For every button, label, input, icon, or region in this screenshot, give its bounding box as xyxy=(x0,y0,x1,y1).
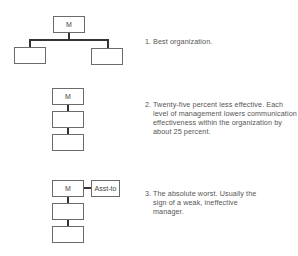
level-box xyxy=(52,134,84,151)
manager-box: M xyxy=(52,180,84,197)
caption-text: Twenty-five percent less effective. Each… xyxy=(145,100,297,136)
manager-box: M xyxy=(52,88,84,105)
caption-text: The absolute worst. Usually the sign of … xyxy=(145,189,270,216)
connector xyxy=(84,187,91,189)
caption-1: 1. Best organization. xyxy=(145,37,295,46)
manager-label: M xyxy=(66,21,72,28)
connector xyxy=(29,39,109,41)
connector xyxy=(107,39,109,48)
manager-box: M xyxy=(53,16,85,33)
subordinate-box xyxy=(14,47,46,64)
caption-number: 3. xyxy=(145,189,151,198)
caption-number: 2. xyxy=(145,100,151,109)
caption-number: 1. xyxy=(145,37,151,46)
caption-text: Best organization. xyxy=(145,37,295,46)
level-box xyxy=(52,226,84,243)
assistant-box: Asst-to xyxy=(91,180,120,197)
assistant-label: Asst-to xyxy=(95,185,117,192)
caption-2: 2. Twenty-five percent less effective. E… xyxy=(145,100,297,136)
manager-label: M xyxy=(65,185,71,192)
manager-label: M xyxy=(65,93,71,100)
level-box xyxy=(52,203,84,220)
subordinate-box xyxy=(91,48,123,65)
level-box xyxy=(52,111,84,128)
caption-3: 3. The absolute worst. Usually the sign … xyxy=(145,189,270,216)
